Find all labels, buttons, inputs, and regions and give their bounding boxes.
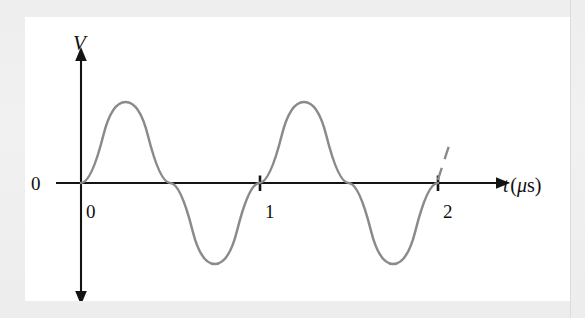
scanned-page-background: V t (μs) 0 0 1 2 — [0, 0, 585, 318]
micro-symbol: μ — [517, 174, 527, 196]
figure-panel: V t (μs) 0 0 1 2 — [25, 17, 570, 301]
y-axis-label: V — [73, 33, 86, 54]
x-tick-label-1: 1 — [265, 202, 275, 221]
page-margin-rule — [570, 0, 571, 318]
axis-origin-label: 0 — [31, 174, 41, 193]
x-tick-label-2: 2 — [443, 202, 453, 221]
x-axis-close-paren: ) — [535, 174, 542, 196]
waveform-dashed-continuation — [438, 139, 451, 180]
x-axis-label: t (μs) — [503, 175, 541, 195]
y-axis-down-arrowhead — [75, 291, 87, 301]
x-axis-open-paren: ( — [510, 174, 517, 196]
waveform-plot — [25, 17, 570, 301]
x-tick-label-0: 0 — [86, 202, 96, 221]
x-axis-unit: s — [527, 174, 535, 196]
